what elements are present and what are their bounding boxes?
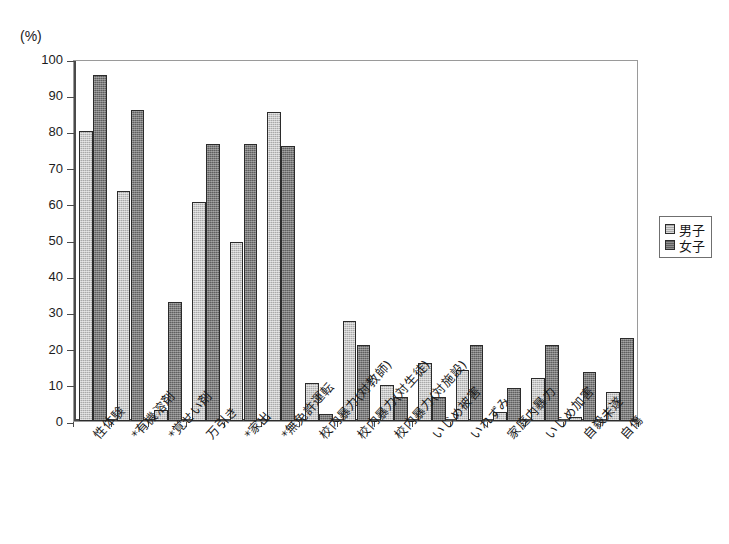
- y-tick-label: 0: [23, 415, 63, 428]
- bar-group: [601, 61, 639, 421]
- y-tick: [67, 133, 74, 134]
- y-tick-label: 100: [23, 53, 63, 66]
- legend-swatch-female-icon: [665, 240, 675, 250]
- y-tick: [67, 386, 74, 387]
- bar-male: [267, 112, 281, 422]
- bar-group: [300, 61, 338, 421]
- y-tick: [67, 169, 74, 170]
- y-tick-label: 50: [23, 234, 63, 247]
- bar-group: [225, 61, 263, 421]
- bar-female: [244, 144, 258, 421]
- y-tick-label: 90: [23, 89, 63, 102]
- y-tick: [67, 350, 74, 351]
- bar-female: [93, 75, 107, 421]
- y-tick: [67, 314, 74, 315]
- y-axis-unit-label: (%): [20, 28, 42, 44]
- y-tick: [67, 61, 74, 62]
- y-tick: [67, 242, 74, 243]
- bar-group: [564, 61, 602, 421]
- y-tick-label: 40: [23, 270, 63, 283]
- y-tick-label: 30: [23, 306, 63, 319]
- y-tick: [67, 278, 74, 279]
- y-tick-label: 20: [23, 343, 63, 356]
- legend-label-female: 女子: [679, 236, 705, 255]
- y-tick-label: 70: [23, 162, 63, 175]
- bar-male: [230, 242, 244, 421]
- y-tick-label: 60: [23, 198, 63, 211]
- bar-female: [206, 144, 220, 421]
- bar-male: [117, 191, 131, 421]
- plot-area: [73, 60, 638, 422]
- y-tick: [67, 205, 74, 206]
- bar-group: [187, 61, 225, 421]
- bar-chart: (%) 0102030405060708090100 性体験*有機溶剤*覚せい剤…: [0, 0, 729, 544]
- bar-group: [112, 61, 150, 421]
- bar-group: [526, 61, 564, 421]
- legend-item-female: 女子: [665, 237, 705, 253]
- bar-group: [149, 61, 187, 421]
- bar-female: [131, 110, 145, 421]
- y-tick-label: 10: [23, 379, 63, 392]
- bar-group: [74, 61, 112, 421]
- bar-group: [488, 61, 526, 421]
- bar-male: [79, 131, 93, 421]
- legend-swatch-male-icon: [665, 224, 675, 234]
- bar-group: [262, 61, 300, 421]
- chart-legend: 男子 女子: [659, 216, 712, 258]
- y-tick-label: 80: [23, 125, 63, 138]
- y-tick: [67, 97, 74, 98]
- bar-female: [281, 146, 295, 421]
- x-tick: [73, 422, 74, 427]
